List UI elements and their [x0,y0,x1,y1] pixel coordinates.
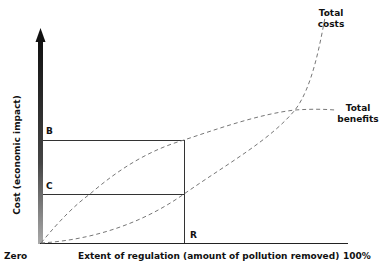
y-axis-label: Cost (economic impact) [12,90,22,220]
y-axis [38,40,43,244]
origin-label: Zero [4,251,27,261]
total-benefits-curve [41,109,335,243]
total-costs-label-line2: costs [311,19,351,30]
r-label: R [190,230,197,240]
x-max-label: 100% [343,251,371,261]
total-benefits-label-line1: Total [333,103,383,114]
total-costs-label: Total costs [311,8,351,30]
b-label: B [46,126,53,136]
total-benefits-label-line2: benefits [333,114,383,125]
chart-canvas [0,0,388,269]
total-costs-curve [41,12,326,243]
x-axis-label: Extent of regulation (amount of pollutio… [78,251,339,261]
c-label: C [46,181,53,191]
y-axis-arrow-icon [36,28,46,42]
total-costs-label-line1: Total [311,8,351,19]
total-benefits-label: Total benefits [333,103,383,125]
